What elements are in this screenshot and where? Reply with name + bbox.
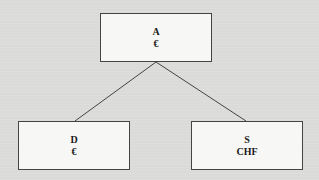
node-a-box: A €	[100, 13, 212, 62]
node-s-name: S	[244, 134, 250, 146]
node-d-box: D €	[18, 121, 130, 170]
node-d-currency: €	[72, 146, 77, 158]
node-d-name: D	[70, 134, 77, 146]
node-a-currency: €	[154, 38, 159, 50]
node-a-name: A	[152, 26, 159, 38]
edge-a-to-s	[156, 62, 246, 121]
node-s-box: S CHF	[191, 121, 303, 170]
node-s-currency: CHF	[236, 146, 257, 158]
edge-a-to-d	[75, 62, 156, 121]
